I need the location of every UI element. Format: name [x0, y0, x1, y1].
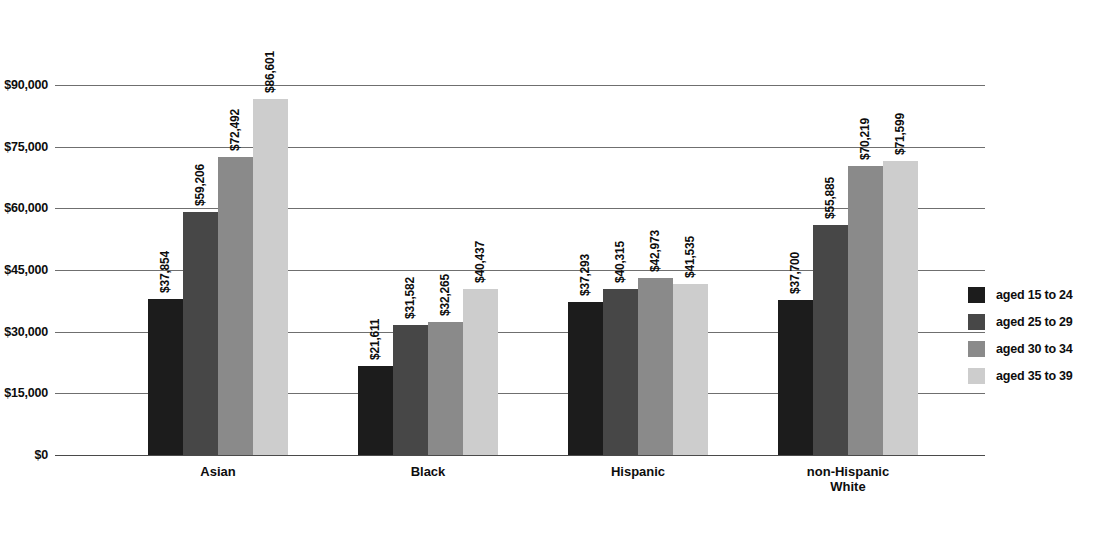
bar-value-label: $55,885 [823, 177, 837, 219]
bar[interactable] [603, 289, 638, 455]
bar[interactable] [638, 278, 673, 455]
bar-slot: $86,601 [253, 85, 288, 455]
bar-value-label: $37,854 [158, 251, 172, 293]
y-axis-tick-label: $30,000 [0, 325, 48, 339]
bar[interactable] [183, 212, 218, 455]
bar-slot: $37,700 [778, 85, 813, 455]
bar-value-label: $59,206 [193, 164, 207, 206]
bar-value-label: $32,265 [438, 274, 452, 316]
bar[interactable] [218, 157, 253, 455]
y-axis-tick-label: $45,000 [0, 263, 48, 277]
bar-group: $21,611$31,582$32,265$40,437 [358, 85, 498, 455]
bar[interactable] [813, 225, 848, 455]
bar-group-bars: $37,700$55,885$70,219$71,599 [778, 85, 918, 455]
bar-slot: $40,315 [603, 85, 638, 455]
bar-slot: $37,293 [568, 85, 603, 455]
bar-slot: $71,599 [883, 85, 918, 455]
bar-slot: $42,973 [638, 85, 673, 455]
bar-value-label: $41,535 [683, 236, 697, 278]
legend-swatch-icon [968, 287, 985, 303]
bar-group-bars: $37,293$40,315$42,973$41,535 [568, 85, 708, 455]
legend-swatch-icon [968, 368, 985, 384]
axis-baseline [55, 455, 985, 456]
bar-slot: $41,535 [673, 85, 708, 455]
bar[interactable] [148, 299, 183, 455]
chart-legend: aged 15 to 24aged 25 to 29aged 30 to 34a… [968, 281, 1073, 389]
bar-group: $37,293$40,315$42,973$41,535 [568, 85, 708, 455]
y-axis-tick-label: $75,000 [0, 140, 48, 154]
bar[interactable] [778, 300, 813, 455]
bar[interactable] [428, 322, 463, 455]
bar[interactable] [253, 99, 288, 455]
legend-item[interactable]: aged 30 to 34 [968, 335, 1073, 362]
legend-swatch-icon [968, 341, 985, 357]
legend-item[interactable]: aged 25 to 29 [968, 308, 1073, 335]
bar-value-label: $72,492 [228, 109, 242, 151]
y-axis-tick-label: $15,000 [0, 386, 48, 400]
legend-item[interactable]: aged 15 to 24 [968, 281, 1073, 308]
y-axis-tick-label: $60,000 [0, 201, 48, 215]
bar-slot: $70,219 [848, 85, 883, 455]
bar-slot: $37,854 [148, 85, 183, 455]
bar-value-label: $42,973 [648, 230, 662, 272]
category-label: non-Hispanic White [758, 464, 938, 494]
bar[interactable] [848, 166, 883, 455]
bar-slot: $21,611 [358, 85, 393, 455]
bar-group: $37,700$55,885$70,219$71,599 [778, 85, 918, 455]
legend-item-label: aged 25 to 29 [996, 315, 1073, 329]
bar-value-label: $70,219 [858, 118, 872, 160]
bar-slot: $31,582 [393, 85, 428, 455]
bar-chart: $0$15,000$30,000$45,000$60,000$75,000$90… [0, 0, 1119, 536]
bar[interactable] [393, 325, 428, 455]
bar-value-label: $40,315 [613, 241, 627, 283]
bar[interactable] [568, 302, 603, 455]
bar-value-label: $21,611 [368, 319, 382, 360]
bar-slot: $59,206 [183, 85, 218, 455]
legend-item-label: aged 35 to 39 [996, 369, 1073, 383]
bar[interactable] [358, 366, 393, 455]
bar[interactable] [883, 161, 918, 455]
bar-value-label: $40,437 [473, 241, 487, 283]
bar-slot: $40,437 [463, 85, 498, 455]
legend-item[interactable]: aged 35 to 39 [968, 362, 1073, 389]
bar-slot: $32,265 [428, 85, 463, 455]
bar-group: $37,854$59,206$72,492$86,601 [148, 85, 288, 455]
legend-item-label: aged 15 to 24 [996, 288, 1073, 302]
bar-value-label: $71,599 [893, 113, 907, 155]
bar-value-label: $31,582 [403, 277, 417, 319]
bar-slot: $55,885 [813, 85, 848, 455]
bar-value-label: $86,601 [263, 51, 277, 93]
bar-group-bars: $21,611$31,582$32,265$40,437 [358, 85, 498, 455]
y-axis-tick-label: $90,000 [0, 78, 48, 92]
bar-slot: $72,492 [218, 85, 253, 455]
category-label: Black [338, 464, 518, 479]
category-label: Hispanic [548, 464, 728, 479]
category-label: Asian [128, 464, 308, 479]
bar[interactable] [463, 289, 498, 455]
y-axis-tick-label: $0 [0, 448, 48, 462]
bar-value-label: $37,293 [578, 254, 592, 296]
bar[interactable] [673, 284, 708, 455]
bar-group-bars: $37,854$59,206$72,492$86,601 [148, 85, 288, 455]
bar-value-label: $37,700 [788, 252, 802, 294]
legend-item-label: aged 30 to 34 [996, 342, 1073, 356]
legend-swatch-icon [968, 314, 985, 330]
